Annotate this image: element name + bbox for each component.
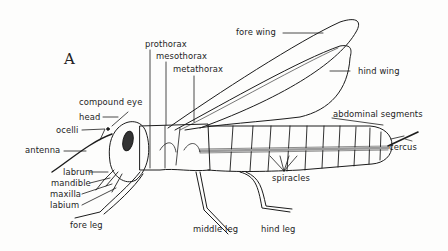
panel-label: A [64,52,75,67]
label-antenna: antenna [25,146,60,154]
label-middle-leg: middle leg [193,225,238,233]
label-abdominal-segments: abdominal segments [333,110,423,118]
leader-lines [64,33,404,205]
label-metathorax: metathorax [173,65,223,73]
label-head: head [79,113,100,121]
mouthparts [96,170,122,192]
label-mandible: mandible [51,179,91,187]
label-labrum: labrum [63,168,93,176]
label-mesothorax: mesothorax [156,52,207,60]
insect-anatomy-diagram: A prothorax mesothorax metathorax fore w… [0,0,448,251]
label-compound-eye: compound eye [79,98,142,106]
label-hind-wing: hind wing [358,67,400,75]
label-prothorax: prothorax [145,40,187,48]
label-maxilla: maxilla [50,190,81,198]
label-labium: labium [50,201,79,209]
label-fore-leg: fore leg [70,221,103,229]
label-fore-wing: fore wing [236,28,276,36]
head-outline [109,122,148,182]
ocellus [107,128,110,131]
label-hind-leg: hind leg [261,225,296,233]
compound-eye [121,130,135,152]
label-ocelli: ocelli [56,126,78,134]
label-cercus: cercus [389,143,417,151]
label-spiracles: spiracles [272,174,310,182]
